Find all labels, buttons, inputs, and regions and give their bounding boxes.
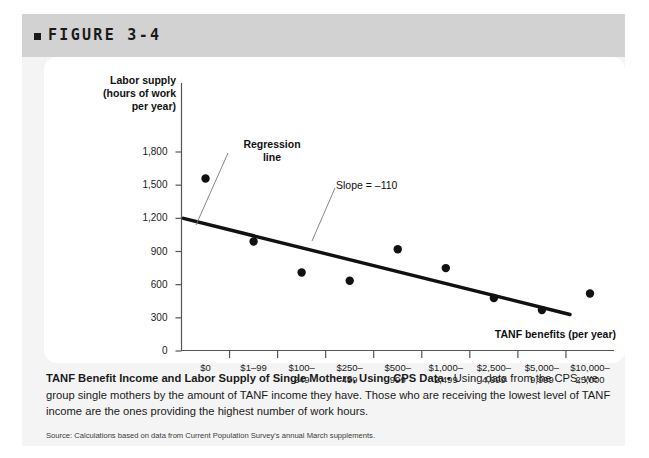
regression-line-annotation: Regression line (229, 138, 315, 163)
figure-page: FIGURE 3-4 Labor supply (hours of work p… (22, 14, 625, 446)
y-tick-label-300: 300 (128, 312, 168, 323)
caption-lead: TANF Benefit Income and Labor Supply of … (46, 372, 444, 384)
y-tick-label-1,800: 1,800 (128, 146, 168, 157)
data-point-6 (490, 294, 498, 302)
x-axis-title: TANF benefits (per year) (448, 328, 616, 341)
y-tick-label-900: 900 (128, 246, 168, 257)
figure-header-band: FIGURE 3-4 (22, 14, 625, 57)
y-axis-title: Labor supply (hours of work per year) (80, 74, 176, 113)
caption-separator: • (444, 372, 454, 384)
figure-number-label: FIGURE 3-4 (48, 26, 161, 44)
y-axis-ticks (176, 152, 182, 351)
data-point-1 (249, 237, 257, 245)
data-point-7 (538, 306, 546, 314)
data-point-5 (442, 264, 450, 272)
y-tick-label-1,500: 1,500 (128, 179, 168, 190)
caption-text: TANF Benefit Income and Labor Supply of … (46, 370, 616, 420)
caption-source: Source: Calculations based on data from … (46, 431, 616, 441)
plot-area: Labor supply (hours of work per year) TA… (44, 57, 625, 363)
y-tick-label-1,200: 1,200 (128, 212, 168, 223)
regression-label-leader-line (196, 153, 228, 225)
square-bullet-icon (34, 33, 41, 40)
y-tick-label-600: 600 (128, 279, 168, 290)
regression-line (184, 218, 571, 314)
caption-block: TANF Benefit Income and Labor Supply of … (46, 370, 616, 441)
data-point-group (201, 174, 594, 314)
data-point-0 (201, 174, 209, 182)
slope-label-leader-line (312, 188, 335, 241)
y-tick-label-0: 0 (128, 345, 168, 356)
data-point-3 (345, 277, 353, 285)
data-point-2 (297, 268, 305, 276)
regression-trend-line (184, 218, 571, 314)
x-axis-ticks (230, 351, 566, 358)
data-point-8 (586, 289, 594, 297)
slope-annotation: Slope = –110 (336, 179, 397, 191)
data-point-4 (394, 245, 402, 253)
chart-card: Labor supply (hours of work per year) TA… (44, 57, 625, 363)
